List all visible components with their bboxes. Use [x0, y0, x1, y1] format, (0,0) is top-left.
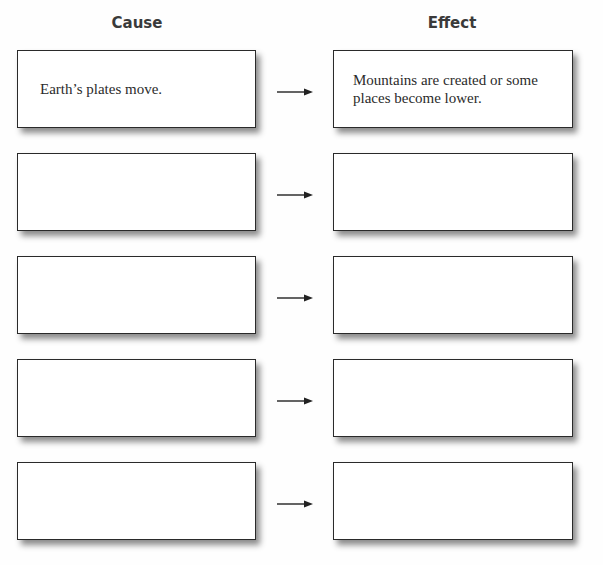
- cause-effect-row-4: [0, 359, 603, 441]
- effect-heading: Effect: [372, 14, 532, 32]
- cause-effect-row-1: Earth’s plates move. Mountains are creat…: [0, 50, 603, 132]
- cause-text-1: Earth’s plates move.: [40, 80, 162, 98]
- right-arrow-icon: [277, 294, 313, 302]
- effect-box-4[interactable]: [333, 359, 573, 437]
- cause-box-1[interactable]: Earth’s plates move.: [17, 50, 256, 128]
- right-arrow-icon: [277, 500, 313, 508]
- effect-text-1: Mountains are created or some places bec…: [353, 71, 562, 107]
- cause-effect-row-2: [0, 153, 603, 235]
- effect-box-2[interactable]: [333, 153, 573, 231]
- right-arrow-icon: [277, 397, 313, 405]
- cause-effect-row-3: [0, 256, 603, 338]
- cause-box-2[interactable]: [17, 153, 256, 231]
- right-arrow-icon: [277, 88, 313, 96]
- effect-box-1[interactable]: Mountains are created or some places bec…: [333, 50, 573, 128]
- cause-heading: Cause: [57, 14, 217, 32]
- effect-box-5[interactable]: [333, 462, 573, 540]
- right-arrow-icon: [277, 191, 313, 199]
- cause-box-3[interactable]: [17, 256, 256, 334]
- cause-box-4[interactable]: [17, 359, 256, 437]
- cause-box-5[interactable]: [17, 462, 256, 540]
- cause-effect-row-5: [0, 462, 603, 544]
- effect-box-3[interactable]: [333, 256, 573, 334]
